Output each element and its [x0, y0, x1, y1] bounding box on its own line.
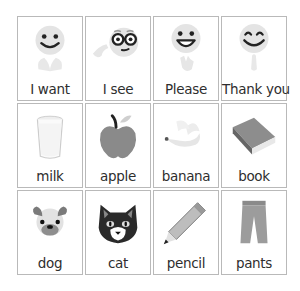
card-label: milk — [18, 167, 82, 185]
card-label: Please — [154, 80, 218, 98]
card-dog[interactable]: dog — [17, 190, 83, 275]
card-cat[interactable]: cat — [85, 190, 151, 275]
glasses-face-pointing-icon — [88, 20, 148, 80]
card-thank-you[interactable]: Thank you — [221, 16, 287, 101]
card-milk[interactable]: milk — [17, 103, 83, 188]
card-label: book — [222, 167, 286, 185]
card-apple[interactable]: apple — [85, 103, 151, 188]
banana-icon — [156, 107, 216, 167]
card-banana[interactable]: banana — [153, 103, 219, 188]
pencil-icon — [156, 194, 216, 254]
card-label: pants — [222, 254, 286, 272]
card-please[interactable]: Please — [153, 16, 219, 101]
communication-board: I want I see — [17, 16, 287, 275]
apple-icon — [88, 107, 148, 167]
card-i-want[interactable]: I want — [17, 16, 83, 101]
pants-icon — [224, 194, 284, 254]
card-i-see[interactable]: I see — [85, 16, 151, 101]
glass-of-milk-icon — [20, 107, 80, 167]
card-label: I see — [86, 80, 150, 98]
book-icon — [224, 107, 284, 167]
card-label: I want — [18, 80, 82, 98]
smiling-face-hands-icon — [20, 20, 80, 80]
grinning-face-waving-hand-icon — [156, 20, 216, 80]
cat-face-icon — [88, 194, 148, 254]
card-label: dog — [18, 254, 82, 272]
card-pencil[interactable]: pencil — [153, 190, 219, 275]
card-book[interactable]: book — [221, 103, 287, 188]
happy-face-praying-hands-icon — [224, 20, 284, 80]
card-pants[interactable]: pants — [221, 190, 287, 275]
card-label: apple — [86, 167, 150, 185]
dog-face-icon — [20, 194, 80, 254]
card-label: cat — [86, 254, 150, 272]
card-label: Thank you — [222, 80, 286, 98]
card-label: pencil — [154, 254, 218, 272]
card-label: banana — [154, 167, 218, 185]
